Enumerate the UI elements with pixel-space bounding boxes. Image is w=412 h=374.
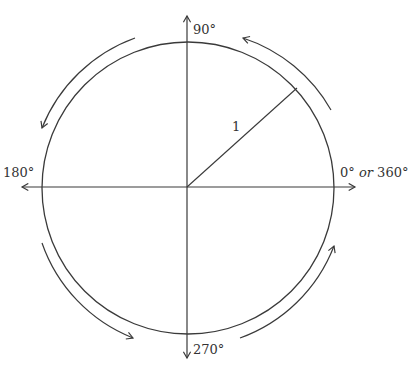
label-90: 90° <box>193 22 216 37</box>
arc-arrow-bottom-right <box>240 246 334 338</box>
arc-arrow-bottom-left <box>42 243 133 338</box>
label-radius: 1 <box>232 119 240 134</box>
unit-circle-diagram: 90° 180° 270° 0° or 360° 1 <box>0 0 412 374</box>
label-360: 360° <box>377 165 408 180</box>
label-or: or <box>359 165 374 180</box>
label-180: 180° <box>3 165 34 180</box>
unit-circle <box>42 42 334 334</box>
label-0-or-360: 0° or 360° <box>340 165 408 180</box>
label-270: 270° <box>193 342 224 357</box>
arc-arrow-top-right <box>243 38 331 110</box>
radius-line <box>187 88 297 187</box>
arc-arrow-top-left <box>42 38 135 128</box>
label-0: 0° <box>340 165 355 180</box>
